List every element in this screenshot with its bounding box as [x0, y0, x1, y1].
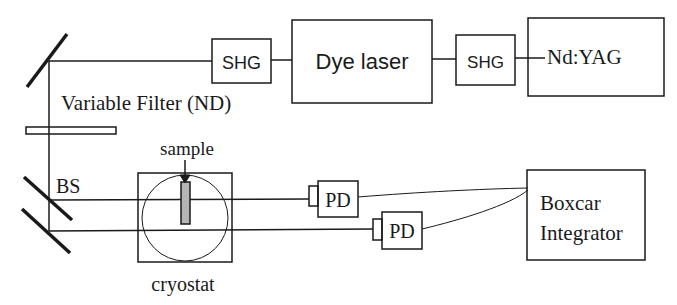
cable-pd1-boxcar [358, 188, 528, 197]
variable-filter-label: Variable Filter (ND) [61, 91, 231, 115]
dye-laser-label: Dye laser [316, 49, 409, 74]
beam-signal [49, 199, 309, 200]
variable-filter [26, 127, 116, 134]
sample-holder [181, 182, 190, 224]
pd1-connector [309, 186, 318, 206]
optical-setup-diagram: SHG Dye laser SHG Nd:YAG Variable Filter… [0, 0, 677, 305]
cable-pd2-boxcar [422, 190, 528, 229]
diagram-canvas: SHG Dye laser SHG Nd:YAG Variable Filter… [0, 0, 677, 305]
shg1-label: SHG [222, 53, 261, 73]
pd2-connector [373, 219, 382, 240]
nd-yag-label: Nd:YAG [547, 45, 622, 69]
beam-splitter-label: BS [56, 175, 80, 197]
beam-reference [49, 229, 373, 231]
boxcar-label-line2: Integrator [540, 221, 623, 245]
boxcar-integrator-box [527, 170, 645, 260]
sample-label: sample [160, 138, 214, 159]
cryostat-label: cryostat [151, 273, 215, 296]
shg2-label: SHG [467, 53, 504, 72]
pd2-label: PD [389, 220, 415, 242]
boxcar-label-line1: Boxcar [540, 191, 601, 215]
pd1-label: PD [325, 189, 351, 211]
